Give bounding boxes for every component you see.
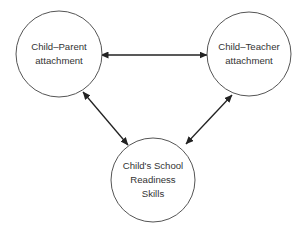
arrow-parent-school xyxy=(83,92,128,145)
node-label-line: attachment xyxy=(35,55,83,66)
node-school-readiness-skills: Child's School Readiness Skills xyxy=(111,138,195,222)
node-child-teacher-attachment: Child–Teacher attachment xyxy=(207,12,291,96)
attachment-diagram: Child–Parent attachment Child–Teacher at… xyxy=(0,0,306,229)
arrow-teacher-school xyxy=(186,95,232,144)
node-circle xyxy=(16,11,102,97)
node-label-line: Skills xyxy=(142,188,165,199)
node-child-parent-attachment: Child–Parent attachment xyxy=(16,11,102,97)
node-label-line: Child's School xyxy=(123,160,184,171)
node-circle xyxy=(207,12,291,96)
node-label-line: Child–Parent xyxy=(31,41,87,52)
node-label-line: Readiness xyxy=(130,174,176,185)
node-label-line: Child–Teacher xyxy=(218,41,280,52)
node-label-line: attachment xyxy=(225,55,273,66)
